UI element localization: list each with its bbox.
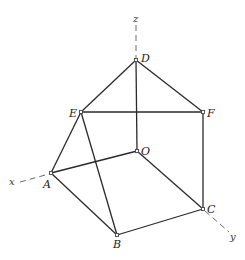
label-E: E	[68, 107, 77, 120]
label-F: F	[206, 107, 215, 120]
edge-DE	[81, 60, 136, 112]
label-A: A	[42, 178, 51, 191]
label-O: O	[141, 145, 150, 158]
diagram-canvas: D E F O A B C z x y	[0, 0, 245, 260]
vertex-B	[116, 234, 119, 237]
label-z-axis: z	[132, 13, 139, 24]
label-D: D	[140, 52, 150, 65]
vertex-E	[80, 111, 83, 114]
label-y-axis: y	[229, 231, 236, 242]
vertex-O	[136, 150, 139, 153]
vertex-F	[202, 111, 205, 114]
edge-OC	[137, 151, 203, 209]
edge-DF	[136, 60, 203, 112]
label-x-axis: x	[9, 176, 15, 187]
label-C: C	[207, 203, 216, 216]
vertex-D	[135, 59, 138, 62]
edge-DO	[136, 60, 137, 151]
edge-EB	[81, 112, 117, 235]
edge-EA	[51, 112, 81, 173]
edge-AB	[51, 173, 117, 235]
vertex-C	[202, 208, 205, 211]
label-B: B	[112, 238, 121, 251]
edge-BC	[117, 209, 203, 235]
vertex-A	[50, 172, 53, 175]
